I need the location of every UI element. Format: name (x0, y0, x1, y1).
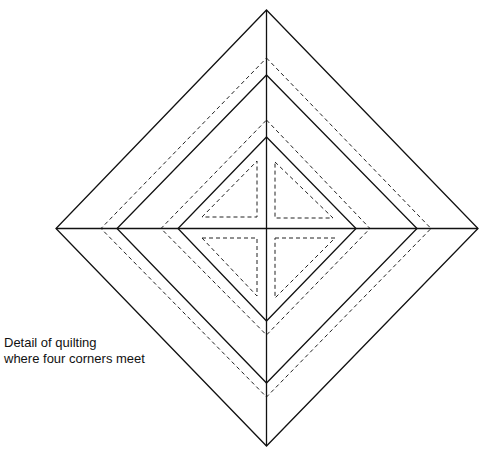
caption-line-2: where four corners meet (4, 351, 145, 367)
triangle-top-left (202, 161, 257, 217)
triangle-top-right (275, 162, 333, 218)
triangle-bottom-left (202, 238, 257, 296)
quilting-line-inner-diamond (161, 120, 370, 335)
inner-dashed-triangles (202, 161, 335, 298)
caption: Detail of quilting where four corners me… (4, 335, 145, 367)
caption-line-1: Detail of quilting (4, 335, 145, 351)
quilting-diagram (0, 0, 479, 454)
cross-seams (56, 10, 478, 446)
triangle-bottom-right (275, 238, 335, 298)
